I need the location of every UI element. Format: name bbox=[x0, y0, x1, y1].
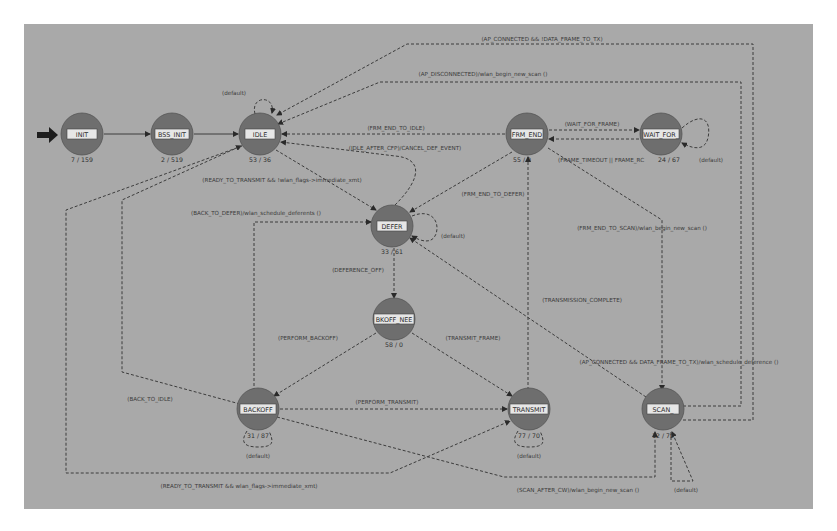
state-counts: 31 / 87 bbox=[247, 432, 269, 439]
entry-arrow-icon bbox=[37, 127, 58, 143]
edge-idle-default[interactable] bbox=[254, 100, 272, 114]
edge-frm-defer[interactable] bbox=[410, 152, 512, 212]
state-backoff[interactable]: BACKOFF 31 / 87 bbox=[237, 388, 279, 439]
state-counts: 12 / 70 bbox=[652, 432, 674, 439]
label-frm-end-to-idle: (FRM_END_TO_IDLE) bbox=[367, 125, 424, 132]
state-name: SCAN_ bbox=[653, 406, 675, 414]
label-scan-after-cw: (SCAN_AFTER_CW)/wlan_begin_new_scan () bbox=[517, 487, 639, 494]
label-perform-backoff: (PERFORM_BACKOFF) bbox=[278, 335, 338, 342]
label-transmit-default: (default) bbox=[517, 453, 541, 459]
label-scan-default: (default) bbox=[674, 487, 698, 493]
label-transmit-frame: (TRANSMIT_FRAME) bbox=[446, 335, 501, 342]
state-name: WAIT_FOR_ bbox=[643, 131, 679, 139]
state-name: TRANSMIT bbox=[512, 406, 546, 414]
state-name: BSS_INIT bbox=[158, 131, 186, 139]
edge-perform-backoff[interactable] bbox=[274, 333, 376, 396]
edge-scan-default[interactable] bbox=[671, 432, 693, 481]
edge-idle-after-cfp[interactable] bbox=[281, 142, 416, 205]
state-counts: 53 / 36 bbox=[249, 156, 271, 163]
state-counts: 24 / 67 bbox=[658, 156, 680, 163]
state-init[interactable]: INIT 7 / 159 bbox=[61, 113, 103, 163]
state-name: BACKOFF bbox=[243, 406, 273, 414]
state-name: IDLE bbox=[253, 131, 267, 139]
label-ready-to-transmit-top: (READY_TO_TRANSMIT && !wlan_flags->immed… bbox=[202, 177, 361, 184]
state-counts: 77 / 70 bbox=[518, 432, 540, 439]
label-ap-connected: (AP_CONNECTED && !DATA_FRAME_TO_TX) bbox=[481, 36, 602, 43]
state-name: DEFER bbox=[381, 223, 403, 231]
label-back-to-idle: (BACK_TO_IDLE) bbox=[127, 396, 173, 403]
label-frm-end-to-scan: (FRM_END_TO_SCAN)/wlan_begin_new_scan () bbox=[577, 225, 707, 232]
edge-defer-default[interactable] bbox=[412, 214, 437, 241]
label-defer-default: (default) bbox=[441, 233, 465, 239]
state-name: BKOFF_NEE bbox=[376, 316, 413, 324]
state-counts: 58 / 0 bbox=[385, 341, 403, 348]
state-defer[interactable]: DEFER 33 / 61 bbox=[371, 205, 413, 255]
label-wait-for-frame: (WAIT_FOR_FRAME) bbox=[565, 121, 620, 128]
edge-wait-default[interactable] bbox=[682, 119, 709, 148]
label-perform-transmit: (PERFORM_TRANSMIT) bbox=[356, 399, 419, 406]
label-ap-disconnected: (AP_DISCONNECTED)/wlan_begin_new_scan () bbox=[419, 71, 548, 78]
label-frame-timeout: (FRAME_TIMEOUT || FRAME_RC bbox=[558, 157, 644, 164]
state-bss-init[interactable]: BSS_INIT 2 / 519 bbox=[151, 113, 193, 163]
state-name: INIT bbox=[76, 131, 89, 139]
state-counts: 55 / 0 bbox=[513, 156, 531, 163]
edge-scan-after-cw[interactable] bbox=[277, 417, 655, 477]
edge-frm-scan[interactable] bbox=[548, 148, 662, 390]
label-deference-off: (DEFERENCE_OFF) bbox=[332, 267, 384, 274]
state-idle[interactable]: IDLE 53 / 36 bbox=[239, 113, 281, 163]
edge-back-defer[interactable] bbox=[254, 222, 371, 391]
label-transmission-complete: (TRANSMISSION_COMPLETE) bbox=[542, 297, 622, 304]
state-name: FRM_END bbox=[512, 131, 543, 139]
state-bkoff-nee[interactable]: BKOFF_NEE 58 / 0 bbox=[373, 298, 415, 348]
state-scan[interactable]: SCAN_ 12 / 70 bbox=[642, 388, 684, 439]
label-wait-default: (default) bbox=[699, 157, 723, 163]
edge-transmit-frame[interactable] bbox=[412, 333, 512, 396]
label-idle-after-cfp: (IDLE_AFTER_CFP)/CANCEL_DEF_EVENT) bbox=[349, 145, 462, 152]
label-ready-to-transmit-bottom: (READY_TO_TRANSMIT && wlan_flags->immedi… bbox=[160, 483, 317, 490]
state-transmit[interactable]: TRANSMIT 77 / 70 bbox=[508, 388, 550, 439]
state-counts: 7 / 159 bbox=[71, 156, 93, 163]
transition-labels: (AP_CONNECTED && !DATA_FRAME_TO_TX) (AP_… bbox=[127, 36, 778, 494]
label-idle-default: (default) bbox=[222, 90, 246, 96]
state-counts: 33 / 61 bbox=[381, 248, 403, 255]
label-back-to-defer: (BACK_TO_DEFER)/wlan_schedule_deferents … bbox=[191, 210, 321, 217]
state-wait-for[interactable]: WAIT_FOR_ 24 / 67 bbox=[640, 113, 682, 163]
label-frm-end-to-defer: (FRM_END_TO_DEFER) bbox=[461, 191, 524, 198]
label-backoff-default: (default) bbox=[246, 453, 270, 459]
edge-back-to-idle[interactable] bbox=[122, 146, 241, 404]
state-diagram: INIT 7 / 159 BSS_INIT 2 / 519 IDLE 53 / … bbox=[0, 0, 837, 531]
state-frm-end[interactable]: FRM_END 55 / 0 bbox=[506, 113, 548, 163]
state-counts: 2 / 519 bbox=[161, 156, 183, 163]
label-ap-connected-to-tx: (AP_CONNECTED && DATA_FRAME_TO_TX)/wlan_… bbox=[580, 359, 779, 366]
